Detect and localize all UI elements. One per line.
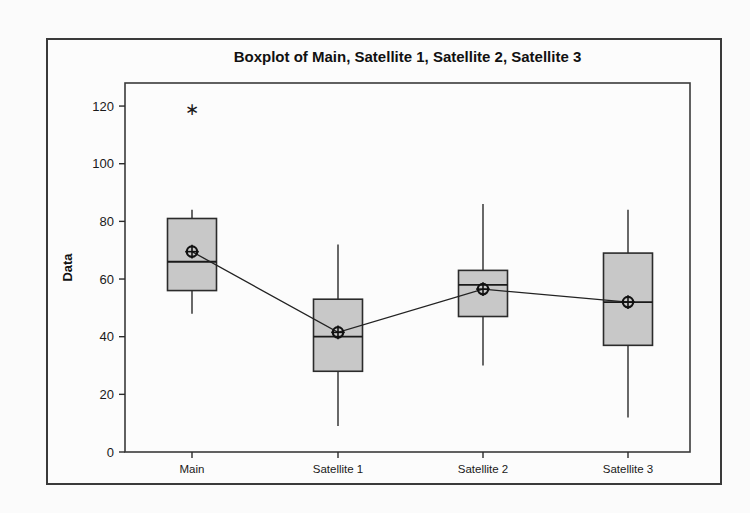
figure-root: Boxplot of Main, Satellite 1, Satellite … [0,0,750,513]
outlier-marker: ∗ [185,100,199,119]
y-axis-tick-label: 80 [100,214,114,229]
y-axis-tick-label: 100 [92,156,114,171]
y-axis-title: Data [60,253,75,282]
boxplot-chart: Boxplot of Main, Satellite 1, Satellite … [0,0,750,513]
y-axis-tick-label: 60 [100,272,114,287]
chart-title: Boxplot of Main, Satellite 1, Satellite … [234,48,582,65]
x-axis-tick-label: Satellite 1 [313,463,364,475]
x-axis-tick-label: Satellite 3 [603,463,654,475]
x-axis-tick-label: Satellite 2 [458,463,509,475]
y-axis-tick-label: 40 [100,329,114,344]
y-axis-tick-label: 20 [100,387,114,402]
y-axis-tick-label: 0 [107,445,114,460]
y-axis-tick-label: 120 [92,99,114,114]
x-axis-tick-label: Main [180,463,205,475]
